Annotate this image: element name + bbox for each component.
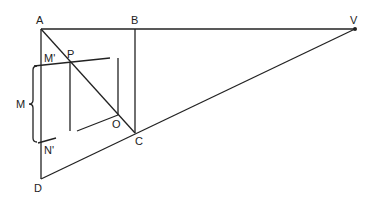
line-D-V: [41, 29, 355, 179]
label-P: P: [67, 48, 74, 60]
brace-M: [29, 66, 37, 142]
label-C: C: [135, 135, 143, 147]
vanishing-point-dot: [353, 27, 357, 31]
label-M: M: [16, 98, 25, 110]
perspective-diagram: A B V M' P M O C N' D: [0, 0, 385, 201]
label-N-prime: N': [44, 144, 54, 156]
line-A-C-diagonal: [41, 29, 135, 133]
label-M-prime: M': [44, 52, 55, 64]
label-O: O: [112, 118, 121, 130]
label-D: D: [34, 182, 42, 194]
label-A: A: [36, 14, 44, 26]
label-V: V: [350, 14, 358, 26]
label-B: B: [131, 14, 138, 26]
